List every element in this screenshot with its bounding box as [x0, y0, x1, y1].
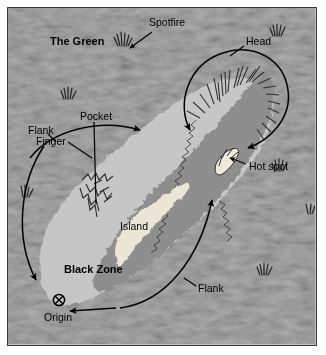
label-pocket: Pocket [80, 110, 112, 122]
label-flank-right: Flank [198, 282, 224, 294]
label-head: Head [246, 35, 271, 47]
label-island: Island [120, 220, 148, 232]
label-spotfire: Spotfire [149, 16, 185, 28]
diagram-frame: The Green Spotfire Head Flank Pocket Fin… [7, 7, 317, 346]
label-hot-spot: Hot spot [249, 160, 288, 172]
diagram-canvas: The Green Spotfire Head Flank Pocket Fin… [8, 8, 316, 345]
diagram-page: The Green Spotfire Head Flank Pocket Fin… [0, 0, 326, 355]
label-finger: Finger [36, 135, 66, 147]
label-origin: Origin [44, 311, 72, 323]
label-the-green: The Green [50, 35, 105, 47]
label-black-zone: Black Zone [64, 263, 123, 275]
